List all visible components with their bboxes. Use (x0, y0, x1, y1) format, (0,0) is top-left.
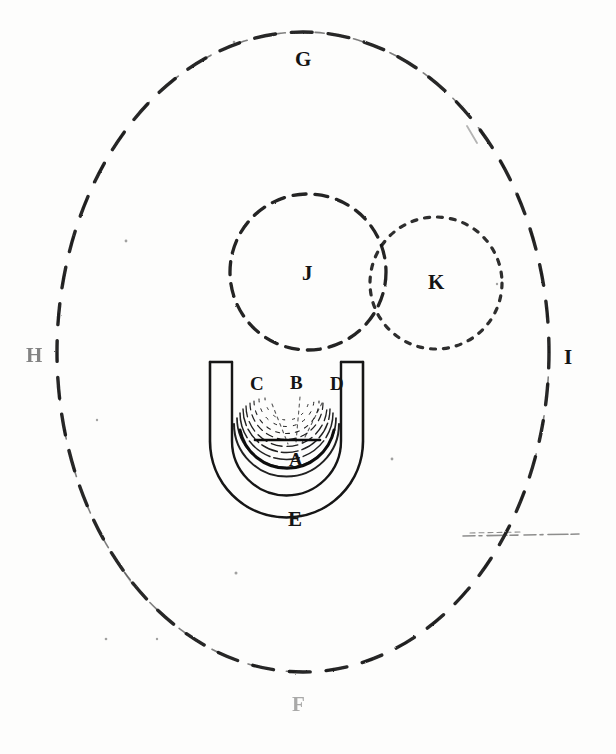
vessel-focus-rays (272, 397, 322, 444)
scan-artifact-line (463, 532, 582, 536)
vessel-inner-arcs (234, 398, 339, 477)
diagram-svg (0, 0, 616, 754)
label-outer-left-h: H (26, 345, 43, 366)
label-vessel-region-c: C (250, 374, 264, 393)
label-outer-right-i: I (564, 347, 573, 368)
label-vessel-focus-a: A (289, 450, 303, 469)
scan-speckles (96, 41, 498, 641)
label-circle-k: K (428, 272, 445, 293)
vessel-bowl-base-line (240, 430, 334, 468)
label-outer-top-g: G (295, 49, 312, 70)
label-vessel-bottom-e: E (288, 509, 303, 530)
outer-dashed-ellipse (57, 32, 549, 672)
outer-dashed-ellipse-ink-variation (57, 32, 549, 672)
label-vessel-region-d: D (330, 374, 344, 393)
label-vessel-region-b: B (290, 373, 303, 392)
label-circle-j: J (302, 263, 313, 284)
figure-canvas: G H I F J K C B D A E (0, 0, 616, 754)
label-outer-bottom-f: F (292, 694, 305, 715)
